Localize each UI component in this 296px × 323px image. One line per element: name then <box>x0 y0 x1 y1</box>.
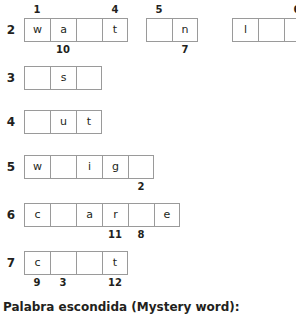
clue-number-below: 9 <box>24 277 50 288</box>
word-grid: wig <box>24 155 154 179</box>
letter-cell-empty[interactable] <box>50 203 76 227</box>
row-number: 6 <box>3 203 19 227</box>
word-grid: l <box>232 18 296 42</box>
letter-cell-empty[interactable] <box>128 155 154 179</box>
letter-cell-filled[interactable]: a <box>76 203 102 227</box>
clue-number-above: 6 <box>284 4 296 15</box>
clue-number-above: 4 <box>102 4 128 15</box>
letter-cell-filled[interactable]: t <box>102 251 128 275</box>
letter-cell-filled[interactable]: t <box>76 110 102 134</box>
mystery-word-label: Palabra escondida (Mystery word): <box>3 300 240 314</box>
word-grid: wat <box>24 18 128 42</box>
letter-cell-filled[interactable]: s <box>50 66 76 90</box>
letter-cell-empty[interactable] <box>76 66 102 90</box>
word-grid: care <box>24 203 180 227</box>
letter-cell-filled[interactable]: t <box>102 18 128 42</box>
letter-cell-empty[interactable] <box>76 18 102 42</box>
letter-cell-empty[interactable] <box>24 110 50 134</box>
word-grid: s <box>24 66 102 90</box>
crossword-puzzle: 2wat1410n57l63s4ut5wig26care1187ct9312 <box>0 0 296 296</box>
row-number: 7 <box>3 251 19 275</box>
clue-number-below: 7 <box>172 44 198 55</box>
clue-number-below: 8 <box>128 229 154 240</box>
clue-number-below: 11 <box>102 229 128 240</box>
letter-cell-filled[interactable]: g <box>102 155 128 179</box>
clue-number-below: 3 <box>50 277 76 288</box>
letter-cell-filled[interactable]: e <box>154 203 180 227</box>
clue-number-above: 5 <box>146 4 172 15</box>
clue-number-below: 2 <box>128 181 154 192</box>
letter-cell-empty[interactable] <box>284 18 296 42</box>
letter-cell-empty[interactable] <box>146 18 172 42</box>
clue-number-below: 10 <box>50 44 76 55</box>
clue-number-below: 12 <box>102 277 128 288</box>
letter-cell-filled[interactable]: a <box>50 18 76 42</box>
letter-cell-empty[interactable] <box>24 66 50 90</box>
clue-number-above: 1 <box>24 4 50 15</box>
letter-cell-empty[interactable] <box>258 18 284 42</box>
letter-cell-filled[interactable]: u <box>50 110 76 134</box>
letter-cell-filled[interactable]: c <box>24 251 50 275</box>
word-grid: n <box>146 18 198 42</box>
letter-cell-filled[interactable]: c <box>24 203 50 227</box>
word-grid: ut <box>24 110 102 134</box>
letter-cell-filled[interactable]: l <box>232 18 258 42</box>
word-grid: ct <box>24 251 128 275</box>
letter-cell-filled[interactable]: w <box>24 155 50 179</box>
letter-cell-filled[interactable]: n <box>172 18 198 42</box>
letter-cell-filled[interactable]: i <box>76 155 102 179</box>
letter-cell-empty[interactable] <box>50 251 76 275</box>
letter-cell-filled[interactable]: w <box>24 18 50 42</box>
letter-cell-filled[interactable]: r <box>102 203 128 227</box>
letter-cell-empty[interactable] <box>76 251 102 275</box>
row-number: 3 <box>3 66 19 90</box>
letter-cell-empty[interactable] <box>50 155 76 179</box>
row-number: 4 <box>3 110 19 134</box>
row-number: 2 <box>3 18 19 42</box>
row-number: 5 <box>3 155 19 179</box>
letter-cell-empty[interactable] <box>128 203 154 227</box>
